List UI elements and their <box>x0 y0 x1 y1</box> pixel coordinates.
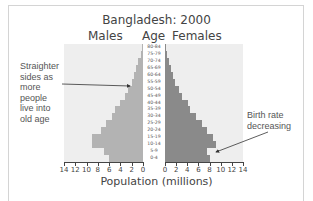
age-label: 5-9 <box>143 148 165 155</box>
age-label: 50-54 <box>143 86 165 93</box>
age-label: 10-14 <box>143 141 165 148</box>
annotation-old-age: Straighter sides as more people live int… <box>20 61 59 124</box>
tick-label: 0 <box>136 166 150 174</box>
annotation-birth-rate: Birth rate decreasing <box>247 110 291 131</box>
chart-title: Bangladesh: 2000 <box>0 13 313 27</box>
age-label: 0-4 <box>143 155 165 162</box>
age-label: 75-79 <box>143 51 165 58</box>
age-label: 60-64 <box>143 72 165 79</box>
age-label: 65-69 <box>143 65 165 72</box>
age-label: 70-74 <box>143 58 165 65</box>
females-header: Females <box>172 29 222 43</box>
age-label: 30-34 <box>143 113 165 120</box>
age-label: 55-59 <box>143 79 165 86</box>
age-label: 40-44 <box>143 100 165 107</box>
age-label: 35-39 <box>143 106 165 113</box>
age-label: 80-84 <box>143 44 165 51</box>
age-label: 45-49 <box>143 93 165 100</box>
age-label: 25-29 <box>143 120 165 127</box>
age-label: 20-24 <box>143 127 165 134</box>
tick-label: 14 <box>236 166 250 174</box>
males-header: Males <box>88 29 123 43</box>
x-axis-label: Population (millions) <box>0 175 313 188</box>
age-label: 15-19 <box>143 134 165 141</box>
age-header: Age <box>142 29 165 43</box>
